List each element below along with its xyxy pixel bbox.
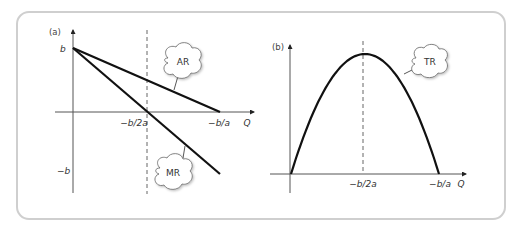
ar-callout: AR <box>164 43 201 90</box>
panel-b-x-axis-label: Q <box>457 179 464 189</box>
tr-callout-tail <box>404 70 412 74</box>
mr-callout-tail <box>183 146 185 158</box>
ar-label: AR <box>177 57 189 67</box>
tr-label: TR <box>423 57 436 67</box>
panel-a-y-tick-neg-b: −b <box>57 166 71 176</box>
panel-b-label: (b) <box>272 42 284 52</box>
panel-b: (b) −b/2a −b/a Q TR <box>270 41 466 193</box>
panel-a-y-tick-b: b <box>60 44 66 54</box>
panel-a-x-tick-mid: −b/2a <box>120 118 148 128</box>
panel-a-x-tick-end: −b/a <box>208 118 230 128</box>
panel-b-x-tick-end: −b/a <box>429 179 451 189</box>
mr-label: MR <box>166 168 180 178</box>
tr-callout: TR <box>404 44 447 77</box>
panel-a-label: (a) <box>49 27 61 37</box>
panel-a-x-axis-label: Q <box>243 118 250 128</box>
mr-callout: MR <box>155 146 192 189</box>
panel-a: (a) b −b −b/2a −b/a Q AR MR <box>49 27 254 194</box>
panel-b-x-tick-mid: −b/2a <box>349 179 377 189</box>
figure-canvas: (a) b −b −b/2a −b/a Q AR MR (b) <box>0 0 524 228</box>
